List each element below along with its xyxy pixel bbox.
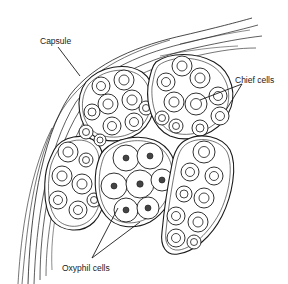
chief-cells-label: Chief cells (235, 76, 274, 85)
capsule-leader (58, 47, 80, 76)
parathyroid-diagram: Capsule Chief cells Oxyphil cells (0, 0, 288, 284)
lobule-upper-right (148, 55, 233, 139)
lobule-lower-right (162, 136, 234, 254)
capsule-label: Capsule (40, 37, 71, 46)
oxyphil-cells-label: Oxyphil cells (62, 264, 110, 273)
oxyphil-cells-leader-2 (92, 222, 140, 258)
